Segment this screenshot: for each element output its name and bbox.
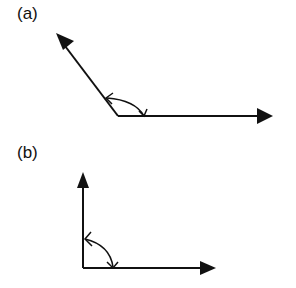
angle-arc-a: [107, 98, 144, 116]
arrowhead-a-right: [257, 108, 273, 124]
vector-a-diagonal: [62, 42, 118, 116]
diagram-canvas: [0, 0, 296, 288]
arrowhead-a-upleft: [56, 33, 74, 50]
arrowhead-b-up: [77, 172, 89, 188]
panel-a-diagram: [56, 33, 273, 124]
arrowhead-b-right: [200, 261, 216, 275]
panel-b-diagram: [77, 172, 216, 275]
arc-arrow-b-start: [85, 232, 92, 246]
